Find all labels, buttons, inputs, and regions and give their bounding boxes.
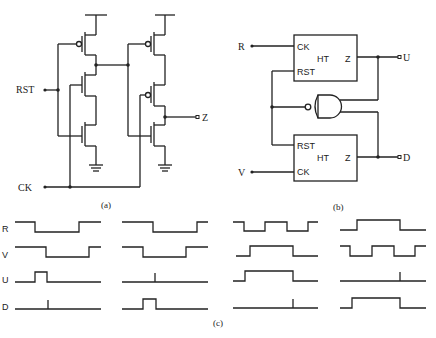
z-label: Z [202, 112, 208, 123]
bottom-z-label: Z [345, 153, 351, 163]
pmos-bubble-icon [77, 42, 82, 47]
rst-label: RST [16, 84, 34, 95]
pmos-bubble-icon [146, 42, 151, 47]
caption-b: (b) [333, 202, 344, 212]
d-terminal [398, 156, 401, 159]
rst-terminal [43, 88, 46, 91]
waveform-r [233, 222, 318, 231]
u-terminal [398, 56, 401, 59]
d-label: D [403, 152, 410, 163]
nand-bubble-icon [305, 104, 311, 110]
waveform-v [122, 247, 208, 257]
bottom-ht-label: HT [317, 153, 329, 163]
waveform-u [233, 271, 318, 281]
top-z-label: Z [345, 54, 351, 64]
row-label-d: D [2, 302, 9, 312]
pmos-bubble-icon [146, 93, 151, 98]
row-label-v: V [2, 250, 8, 260]
row-label-r: R [2, 224, 9, 234]
waveform-u [15, 272, 101, 282]
waveform-d [122, 299, 208, 309]
caption-c: (c) [213, 318, 223, 328]
waveform-v [340, 246, 426, 256]
circuit-a: RST Z [16, 15, 208, 210]
circuit-b: CK HT Z RST R U RST HT Z CK [238, 35, 411, 212]
figure-canvas: RST Z [0, 0, 436, 338]
nand-gate-icon [318, 95, 342, 118]
ck-label: CK [18, 182, 33, 193]
waveform-column-4 [340, 220, 426, 308]
top-ck-label: CK [297, 42, 310, 52]
u-label: U [403, 52, 411, 63]
bottom-rst-label: RST [297, 141, 316, 151]
waveform-v [15, 247, 101, 257]
waveform-v [236, 246, 318, 256]
bottom-ck-label: CK [297, 167, 310, 177]
v-label: V [238, 167, 246, 178]
caption-a: (a) [101, 200, 111, 210]
waveform-column-1 [15, 222, 101, 309]
top-rst-label: RST [297, 67, 316, 77]
waveform-column-3 [233, 222, 318, 308]
ground-icon [158, 165, 172, 171]
top-ht-label: HT [317, 54, 329, 64]
row-label-u: U [2, 275, 9, 285]
waveform-d [340, 298, 426, 308]
ground-icon [89, 165, 103, 171]
waveform-r [122, 222, 208, 232]
waveform-r [340, 220, 426, 230]
r-label: R [238, 41, 245, 52]
ck-terminal [43, 185, 46, 188]
waveform-r [15, 222, 101, 232]
z-terminal [196, 116, 199, 119]
timing-diagram: R V U D [2, 220, 426, 328]
waveform-column-2 [122, 222, 208, 309]
